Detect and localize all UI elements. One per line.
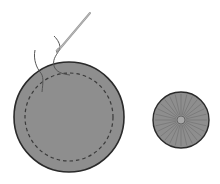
fabric-circle (14, 62, 124, 172)
gathered-yoyo (153, 92, 209, 148)
needle-icon (56, 13, 90, 52)
sewing-illustration (0, 0, 220, 184)
